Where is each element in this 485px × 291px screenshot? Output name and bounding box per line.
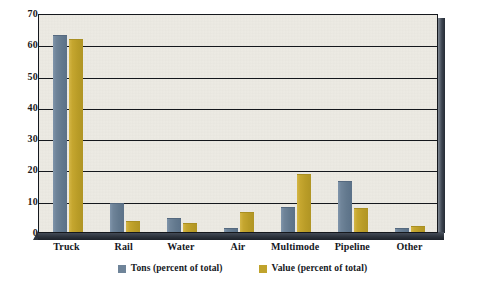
bar-pipeline-value [354, 208, 368, 232]
bar-rail-value [126, 221, 140, 232]
bars-layer [39, 15, 437, 232]
bar-other-tons [395, 228, 409, 232]
legend-swatch-icon [259, 265, 267, 273]
bar-pipeline-tons [338, 181, 352, 232]
x-tick-label: Pipeline [324, 240, 381, 253]
bar-other-value [411, 226, 425, 232]
bar-water-tons [167, 218, 181, 232]
bar-multimode-value [297, 174, 311, 232]
bar-water-value [183, 223, 197, 232]
plot-area [38, 14, 438, 233]
chart-legend: Tons (percent of total)Value (percent of… [0, 263, 485, 274]
x-tick-label: Rail [95, 240, 152, 253]
x-tick-label: Water [152, 240, 209, 253]
legend-label: Tons (percent of total) [131, 263, 223, 274]
y-tick-label: 60 [8, 40, 38, 50]
legend-item[interactable]: Tons (percent of total) [118, 263, 223, 274]
bar-multimode-tons [281, 207, 295, 232]
legend-swatch-icon [118, 265, 126, 273]
chart-frame-right-bevel [437, 18, 445, 233]
x-tick-label: Multimode [267, 240, 324, 253]
bar-truck-tons [53, 35, 67, 232]
bar-air-value [240, 212, 254, 232]
y-tick-label: 10 [8, 197, 38, 207]
y-tick-label: 20 [8, 165, 38, 175]
bar-air-tons [224, 228, 238, 232]
bar-truck-value [69, 39, 83, 232]
y-tick-label: 50 [8, 72, 38, 82]
y-tick-label: 0 [8, 228, 38, 238]
legend-item[interactable]: Value (percent of total) [259, 263, 368, 274]
chart-frame-bottom-bevel [38, 232, 444, 240]
y-tick-label: 70 [8, 9, 38, 19]
bar-rail-tons [110, 203, 124, 232]
x-tick-label: Air [209, 240, 266, 253]
x-tick-label: Other [381, 240, 438, 253]
y-tick-label: 40 [8, 103, 38, 113]
y-tick-label: 30 [8, 134, 38, 144]
legend-label: Value (percent of total) [272, 263, 368, 274]
x-tick-label: Truck [38, 240, 95, 253]
bar-chart: 010203040506070 TruckRailWaterAirMultimo… [0, 0, 485, 291]
x-axis-category-labels: TruckRailWaterAirMultimodePipelineOther [38, 240, 438, 256]
y-axis: 010203040506070 [8, 14, 38, 233]
